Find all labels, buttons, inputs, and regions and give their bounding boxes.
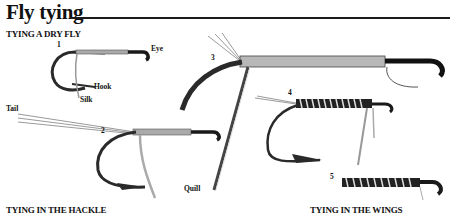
- label-tail: Tail: [6, 104, 18, 113]
- step-1-number: 1: [57, 40, 61, 49]
- step-4-number: 4: [288, 88, 292, 97]
- label-silk: Silk: [80, 95, 93, 104]
- hook-illustrations: [0, 0, 453, 216]
- step-2-number: 2: [101, 126, 105, 135]
- step-5-hook: [342, 178, 441, 200]
- fly-tying-diagram: Fly tying TYING A DRY FLY TYING IN THE H…: [0, 0, 453, 216]
- step-5-number: 5: [330, 172, 334, 181]
- label-hook: Hook: [94, 82, 112, 91]
- label-eye: Eye: [151, 44, 163, 53]
- step-3-number: 3: [211, 53, 215, 62]
- step-3-hook: [182, 33, 442, 190]
- label-quill: Quill: [184, 184, 200, 193]
- step-4-hook: [255, 96, 392, 165]
